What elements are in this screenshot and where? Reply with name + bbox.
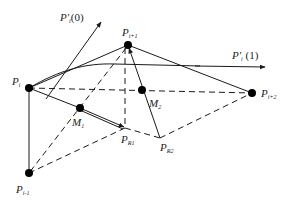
bezier-curve — [29, 64, 200, 88]
segment-pi-pi1 — [29, 45, 128, 88]
label-pr2: PR2 — [160, 142, 173, 154]
segment-pi-m1 — [29, 88, 80, 108]
label-tangent-end: P'i (1) — [232, 50, 258, 62]
label-pr1: PR1 — [121, 134, 134, 146]
segment-m1-pr1-double — [82, 111, 123, 129]
label-m2: M2 — [149, 98, 161, 110]
point-pi1 — [124, 41, 132, 49]
diagram-canvas: P'i(0) P'i (1) Pi Pi+1 Pi+2 Pi-1 M1 M2 P… — [0, 0, 288, 208]
tangent-end-arrow — [195, 66, 265, 67]
dashed-pim1-pr1 — [29, 128, 125, 173]
label-tangent-start: P'i(0) — [60, 12, 84, 24]
segment-m1-pr1-arrow — [80, 108, 124, 127]
point-pim1 — [25, 169, 33, 177]
point-pi — [25, 84, 33, 92]
point-pi2 — [248, 89, 256, 97]
point-m2 — [138, 86, 146, 94]
point-m1 — [76, 104, 84, 112]
label-pi2: Pi+2 — [261, 88, 276, 100]
dashed-pr2-pi2 — [160, 93, 252, 138]
label-pi1: Pi+1 — [122, 27, 137, 39]
label-pi: Pi — [12, 76, 20, 88]
label-m1: M1 — [72, 117, 84, 129]
label-pim1: Pi-1 — [16, 184, 29, 196]
diagram-svg — [0, 0, 288, 208]
